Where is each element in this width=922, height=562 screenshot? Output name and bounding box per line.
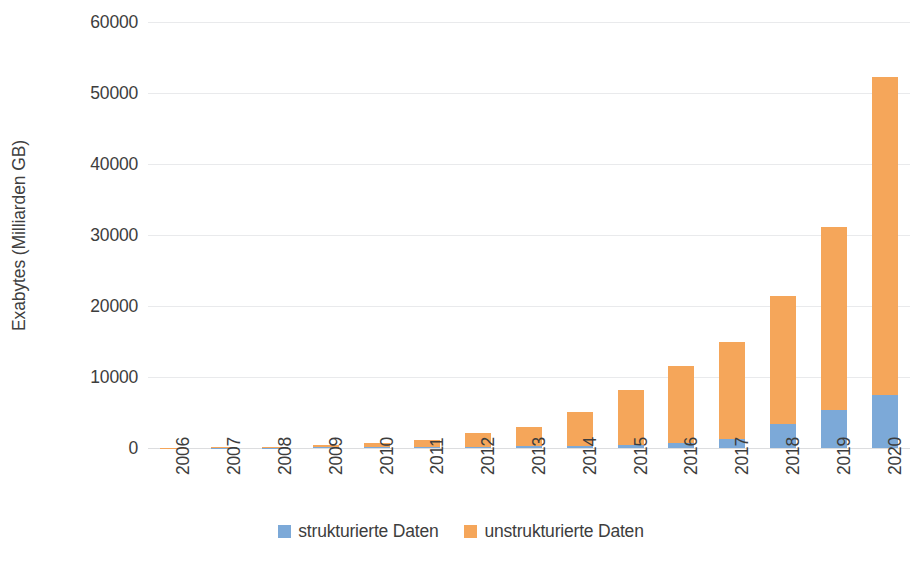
bar-slot-2013: [504, 22, 555, 448]
bar-slot-2019: [808, 22, 859, 448]
legend-entry-structured[interactable]: strukturierte Daten: [278, 521, 438, 542]
plot-area: [148, 22, 910, 448]
bar-slot-2008: [250, 22, 301, 448]
x-slot-2015: 2015: [605, 452, 656, 514]
x-slot-2009: 2009: [300, 452, 351, 514]
x-tick-label-2014: 2014: [580, 437, 601, 475]
x-slot-2019: 2019: [808, 452, 859, 514]
x-tick-label-2018: 2018: [783, 437, 804, 475]
x-axis-tick-labels: 2006200720082009201020112012201320142015…: [148, 452, 910, 514]
y-tick-label-30000: 30000: [90, 225, 138, 246]
x-tick-label-2017: 2017: [732, 437, 753, 475]
x-tick-label-2010: 2010: [377, 437, 398, 475]
bar-stack-2018[interactable]: [770, 296, 796, 448]
x-slot-2016: 2016: [656, 452, 707, 514]
bar-slot-2011: [402, 22, 453, 448]
bar-slot-2016: [656, 22, 707, 448]
x-slot-2020: 2020: [859, 452, 910, 514]
bar-slot-2014: [554, 22, 605, 448]
y-tick-label-50000: 50000: [90, 83, 138, 104]
bar-segment-unstructured-2017[interactable]: [719, 342, 745, 440]
x-tick-label-2011: 2011: [427, 438, 448, 475]
legend-label-structured: strukturierte Daten: [298, 521, 438, 542]
y-tick-label-0: 0: [128, 438, 138, 459]
bar-slot-2018: [758, 22, 809, 448]
x-tick-label-2016: 2016: [681, 437, 702, 475]
x-slot-2012: 2012: [453, 452, 504, 514]
y-axis-tick-labels: 6000050000400003000020000100000: [40, 0, 148, 470]
x-slot-2010: 2010: [351, 452, 402, 514]
bar-slot-2009: [300, 22, 351, 448]
x-slot-2007: 2007: [199, 452, 250, 514]
y-tick-label-40000: 40000: [90, 154, 138, 175]
bar-slot-2007: [199, 22, 250, 448]
bars-layer: [148, 22, 910, 448]
bar-segment-unstructured-2018[interactable]: [770, 296, 796, 424]
y-tick-label-10000: 10000: [90, 367, 138, 388]
legend-swatch-structured: [278, 525, 291, 538]
y-tick-label-20000: 20000: [90, 296, 138, 317]
x-tick-label-2020: 2020: [885, 437, 906, 475]
bar-slot-2010: [351, 22, 402, 448]
y-axis-title-text: Exabytes (Milliarden GB): [10, 139, 31, 330]
x-slot-2008: 2008: [250, 452, 301, 514]
bar-slot-2006: [148, 22, 199, 448]
bar-slot-2017: [707, 22, 758, 448]
x-tick-label-2015: 2015: [631, 437, 652, 475]
y-tick-label-60000: 60000: [90, 12, 138, 33]
x-tick-label-2007: 2007: [224, 437, 245, 475]
x-slot-2011: 2011: [402, 452, 453, 514]
x-slot-2013: 2013: [504, 452, 555, 514]
bar-slot-2012: [453, 22, 504, 448]
x-slot-2014: 2014: [554, 452, 605, 514]
bar-stack-2020[interactable]: [872, 77, 898, 448]
legend-label-unstructured: unstrukturierte Daten: [484, 521, 643, 542]
legend-entry-unstructured[interactable]: unstrukturierte Daten: [464, 521, 643, 542]
bar-segment-unstructured-2016[interactable]: [668, 366, 694, 443]
bar-slot-2020: [859, 22, 910, 448]
bar-stack-2017[interactable]: [719, 342, 745, 448]
legend-swatch-unstructured: [464, 525, 477, 538]
x-slot-2018: 2018: [758, 452, 809, 514]
x-tick-label-2012: 2012: [478, 437, 499, 475]
bar-segment-unstructured-2019[interactable]: [821, 227, 847, 410]
x-tick-label-2008: 2008: [275, 437, 296, 475]
chart-container: Exabytes (Milliarden GB) 600005000040000…: [0, 0, 922, 562]
x-slot-2006: 2006: [148, 452, 199, 514]
x-slot-2017: 2017: [707, 452, 758, 514]
x-tick-label-2019: 2019: [834, 437, 855, 475]
y-axis-title: Exabytes (Milliarden GB): [0, 0, 40, 470]
chart-legend: strukturierte Datenunstrukturierte Daten: [0, 521, 922, 542]
bar-slot-2015: [605, 22, 656, 448]
x-tick-label-2006: 2006: [173, 437, 194, 475]
x-tick-label-2009: 2009: [326, 437, 347, 475]
x-tick-label-2013: 2013: [529, 437, 550, 475]
bar-stack-2016[interactable]: [668, 366, 694, 448]
bar-segment-unstructured-2020[interactable]: [872, 77, 898, 395]
bar-stack-2019[interactable]: [821, 227, 847, 449]
